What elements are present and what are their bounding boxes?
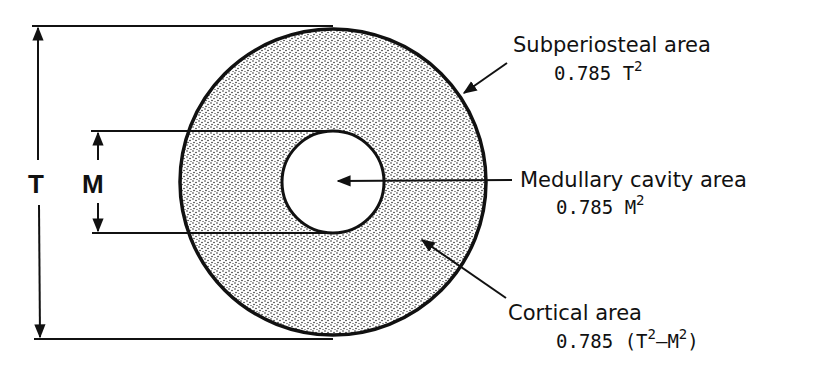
medullary-leader-arrow [338,180,512,181]
bone-cross-section-diagram: T M Subperiosteal area 0.785 T2 Medullar… [0,0,830,372]
cortical-label: Cortical area 0.785 (T2–M2) [508,301,699,352]
medullary-title: Medullary cavity area [520,168,747,192]
subperiosteal-leader-arrow [464,63,507,93]
cortical-title: Cortical area [508,301,642,325]
t-dimension-arrow-down [39,205,40,337]
cortical-formula: 0.785 (T2–M2) [556,326,699,352]
t-dimension-label: T [28,169,44,199]
subperiosteal-formula: 0.785 T2 [554,58,643,84]
m-dimension-label: M [82,169,104,199]
medullary-label: Medullary cavity area 0.785 M2 [520,168,747,218]
subperiosteal-title: Subperiosteal area [513,33,711,57]
subperiosteal-label: Subperiosteal area 0.785 T2 [513,33,711,84]
inner-circle-medullary-cavity [282,131,384,233]
medullary-formula: 0.785 M2 [556,192,645,218]
